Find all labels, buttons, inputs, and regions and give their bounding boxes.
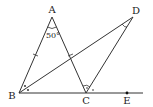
geometry-diagram: A D B C E 50°: [0, 0, 153, 107]
point-e-dot: [126, 92, 129, 95]
angle-arc-a: [48, 27, 57, 29]
angle-dot-b1: [24, 85, 26, 87]
label-e: E: [123, 95, 130, 106]
segment-ac: [52, 17, 86, 93]
angle-arc-c: [83, 85, 90, 87]
label-a: A: [47, 4, 56, 15]
label-b: B: [8, 90, 15, 101]
angle-label-a: 50°: [46, 31, 60, 40]
label-d: D: [132, 5, 140, 16]
angle-dot-b2: [27, 89, 29, 91]
angle-dot-c2: [92, 89, 94, 91]
angle-arc-d: [122, 24, 127, 27]
angle-dot-c1: [86, 87, 88, 89]
label-c: C: [82, 95, 90, 106]
segment-cd: [86, 17, 133, 93]
